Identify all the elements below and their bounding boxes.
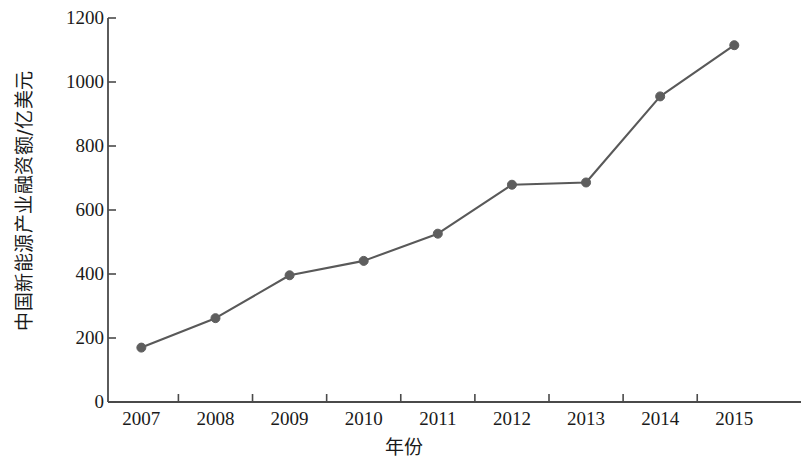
axis-lines (108, 18, 801, 402)
x-axis-title: 年份 (0, 432, 808, 459)
line-chart: 中国新能源产业融资额/亿美元 020040060080010001200 200… (0, 0, 808, 468)
data-point-marker (433, 229, 442, 238)
data-point-marker (359, 256, 368, 265)
data-point-markers (137, 41, 739, 352)
data-point-marker (211, 314, 220, 323)
data-point-marker (582, 178, 591, 187)
data-point-marker (656, 92, 665, 101)
y-axis-ticks (108, 18, 116, 402)
data-point-marker (507, 180, 516, 189)
plot-area (0, 0, 808, 468)
data-point-marker (137, 343, 146, 352)
x-axis-title-text: 年份 (385, 436, 423, 458)
x-axis-ticks (178, 394, 697, 402)
data-line-series-1 (141, 45, 734, 347)
data-point-marker (285, 271, 294, 280)
data-point-marker (730, 41, 739, 50)
